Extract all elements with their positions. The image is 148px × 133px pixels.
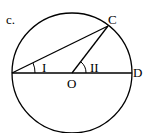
point-c-label: C [108,12,117,27]
circle-diagram: c. C D O I II [0,0,148,133]
point-o-label: O [67,76,76,91]
angle-ii-label: II [90,60,99,75]
angle-arc-ii [81,62,86,73]
figure-label: c. [6,12,15,27]
angle-arc-i [33,63,35,73]
diagram-canvas: c. C D O I II [0,0,148,133]
point-d-label: D [133,65,142,80]
angle-i-label: I [42,60,46,75]
